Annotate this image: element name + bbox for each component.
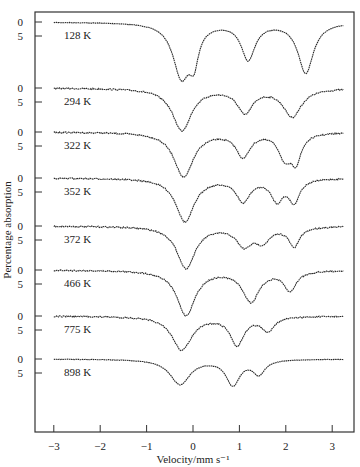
y-tick-label: 5 bbox=[18, 186, 24, 198]
y-axis-title: Percentage absorption bbox=[1, 181, 13, 279]
spectrum-curve bbox=[54, 270, 344, 316]
y-tick-label: 0 bbox=[18, 310, 24, 322]
spectrum-curve bbox=[54, 359, 344, 386]
y-tick-label: 5 bbox=[18, 30, 24, 42]
y-tick-label: 5 bbox=[18, 140, 24, 152]
y-tick-label: 0 bbox=[18, 220, 24, 232]
spectrum-curve bbox=[54, 22, 344, 81]
spectrum-curve bbox=[54, 88, 344, 132]
x-axis: −3−2−10123 bbox=[48, 425, 336, 452]
x-axis-title: Velocity/mm s⁻¹ bbox=[156, 453, 229, 465]
y-tick-label: 0 bbox=[18, 82, 24, 94]
temperature-label: 898 K bbox=[64, 366, 91, 378]
temperature-label: 352 K bbox=[64, 185, 91, 197]
mossbauer-spectra-chart: 128 K294 K322 K352 K372 K466 K775 K898 K… bbox=[0, 0, 360, 467]
y-tick-label: 5 bbox=[18, 324, 24, 336]
y-tick-label: 5 bbox=[18, 96, 24, 108]
x-tick-label: −1 bbox=[141, 440, 153, 452]
temperature-label: 775 K bbox=[64, 323, 91, 335]
spectrum-curve bbox=[54, 132, 344, 177]
y-tick-label: 5 bbox=[18, 367, 24, 379]
y-tick-label: 0 bbox=[18, 172, 24, 184]
y-axis: 0505050505050505 bbox=[18, 16, 43, 379]
spectra-series: 128 K294 K322 K352 K372 K466 K775 K898 K bbox=[54, 22, 344, 386]
temperature-label: 128 K bbox=[64, 29, 91, 41]
x-tick-label: −2 bbox=[94, 440, 106, 452]
x-tick-label: 3 bbox=[329, 440, 335, 452]
y-tick-label: 5 bbox=[18, 234, 24, 246]
spectrum-curve bbox=[54, 178, 344, 223]
spectrum-curve bbox=[54, 226, 344, 269]
x-tick-label: −3 bbox=[48, 440, 60, 452]
y-tick-label: 0 bbox=[18, 353, 24, 365]
temperature-label: 322 K bbox=[64, 139, 91, 151]
x-tick-label: 1 bbox=[237, 440, 243, 452]
temperature-label: 372 K bbox=[64, 233, 91, 245]
temperature-label: 294 K bbox=[64, 95, 91, 107]
temperature-label: 466 K bbox=[64, 277, 91, 289]
y-tick-label: 0 bbox=[18, 126, 24, 138]
x-tick-label: 2 bbox=[283, 440, 289, 452]
x-tick-label: 0 bbox=[190, 440, 196, 452]
spectrum-curve bbox=[54, 316, 344, 351]
y-tick-label: 0 bbox=[18, 16, 24, 28]
y-tick-label: 5 bbox=[18, 278, 24, 290]
y-tick-label: 0 bbox=[18, 264, 24, 276]
